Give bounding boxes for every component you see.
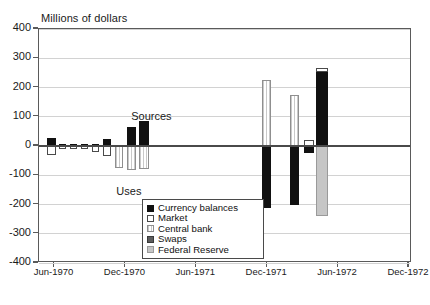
- bar-currency: [290, 146, 299, 205]
- grid-line: [39, 175, 410, 176]
- y-tick-label: -300: [0, 226, 31, 238]
- bar-currency: [127, 127, 136, 146]
- chart-legend: Currency balancesMarketCentral bankSwaps…: [142, 199, 264, 259]
- annotation-sources: Sources: [131, 110, 171, 122]
- y-axis-title: Millions of dollars: [41, 12, 127, 24]
- y-tick-label: -400: [0, 255, 31, 267]
- legend-swatch-central: [147, 225, 154, 232]
- y-tick-label: -100: [0, 167, 31, 179]
- legend-swatch-fed: [147, 246, 154, 253]
- y-tick-label: 0: [0, 138, 31, 150]
- legend-swatch-swaps: [147, 236, 154, 243]
- annotation-uses: Uses: [116, 185, 141, 197]
- grid-line: [39, 58, 410, 59]
- legend-label: Federal Reserve: [158, 245, 229, 255]
- grid-line: [39, 116, 410, 117]
- zero-line: [39, 145, 410, 146]
- bar-currency: [316, 72, 328, 146]
- bar-central: [139, 146, 149, 169]
- bar-market: [47, 146, 56, 155]
- grid-line: [39, 87, 410, 88]
- bar-currency: [139, 121, 149, 146]
- grid-line: [39, 263, 410, 264]
- x-tick-label: Dec-1971: [246, 266, 287, 277]
- legend-item[interactable]: Federal Reserve: [147, 245, 259, 255]
- y-tick-label: 400: [0, 21, 31, 33]
- x-tick-label: Jun-1971: [175, 266, 215, 277]
- y-tick-label: -200: [0, 197, 31, 209]
- grid-line: [39, 29, 410, 30]
- bar-central: [127, 146, 136, 170]
- legend-swatch-currency: [147, 205, 154, 212]
- bar-central: [262, 80, 271, 146]
- x-tick-label: Jun-1970: [34, 266, 74, 277]
- legend-item[interactable]: Swaps: [147, 234, 259, 244]
- x-tick-label: Jun-1972: [317, 266, 357, 277]
- x-tick-label: Dec-1970: [104, 266, 145, 277]
- bar-central: [290, 95, 299, 146]
- legend-swatch-market: [147, 215, 154, 222]
- bar-market: [103, 146, 111, 156]
- bar-market: [92, 146, 100, 152]
- y-tick-label: 300: [0, 50, 31, 62]
- chart-figure: Millions of dollars 4003002001000-100-20…: [0, 0, 430, 305]
- y-tick-label: 200: [0, 80, 31, 92]
- y-tick-label: 100: [0, 109, 31, 121]
- bar-fed: [316, 146, 328, 216]
- bar-currency: [304, 146, 314, 153]
- x-tick-label: Dec-1972: [387, 266, 428, 277]
- bar-central: [115, 146, 123, 168]
- bar-market: [316, 68, 328, 73]
